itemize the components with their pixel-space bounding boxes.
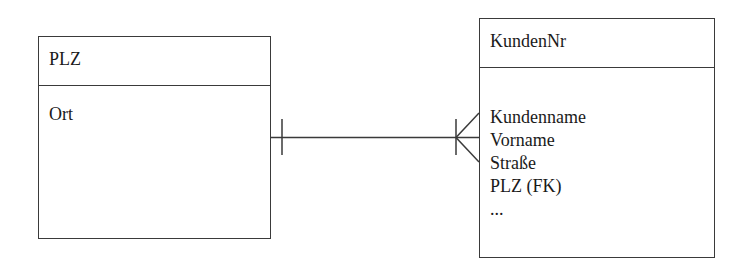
relationship-plz-kunden [0,0,753,272]
